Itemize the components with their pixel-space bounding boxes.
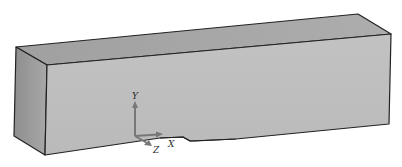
y-axis-label: Y [132, 91, 139, 101]
beam-side-face [14, 47, 47, 155]
z-axis-label: Z [152, 145, 160, 155]
x-axis-label: X [167, 139, 175, 149]
beam-diagram: Y X Z [0, 0, 402, 167]
